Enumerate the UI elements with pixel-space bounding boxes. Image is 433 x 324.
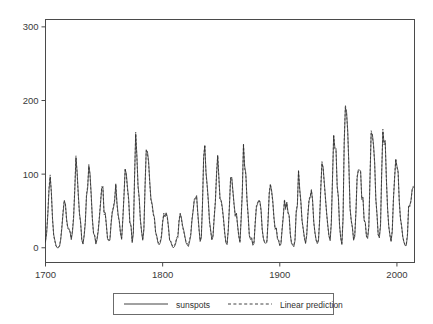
legend-label-linear-prediction: Linear prediction xyxy=(280,300,343,310)
chart-legend: sunspots Linear prediction xyxy=(114,294,344,315)
y-tick-label: 200 xyxy=(23,95,39,106)
x-tick-label: 2000 xyxy=(386,269,407,280)
x-tick-label: 1700 xyxy=(35,269,56,280)
figure-background xyxy=(0,0,433,324)
x-tick-label: 1800 xyxy=(152,269,173,280)
chart-figure: 0100200300 1700180019002000 sunspots Lin… xyxy=(0,0,433,324)
x-tick-label: 1900 xyxy=(269,269,290,280)
y-tick-label: 300 xyxy=(23,21,39,32)
y-tick-label: 100 xyxy=(23,169,39,180)
sunspots-time-series-chart: 0100200300 1700180019002000 sunspots Lin… xyxy=(0,0,433,324)
legend-label-sunspots: sunspots xyxy=(176,300,210,310)
y-tick-label: 0 xyxy=(33,242,38,253)
